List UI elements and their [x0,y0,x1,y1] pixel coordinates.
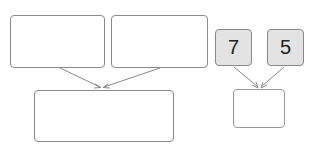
answer-box[interactable] [233,89,285,128]
number-box-right: 5 [267,29,304,66]
pears-group-box [111,15,208,68]
number-box-left: 7 [215,29,252,66]
apples-group-box [10,15,105,68]
combined-group-box [34,90,174,142]
